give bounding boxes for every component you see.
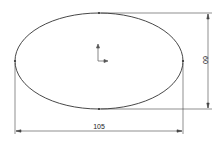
coordinate-axes-icon bbox=[97, 44, 109, 63]
width-dimension-label[interactable]: 105 bbox=[93, 123, 105, 130]
height-dimension[interactable] bbox=[101, 13, 212, 109]
height-dimension-label[interactable]: 60 bbox=[202, 56, 209, 64]
sketch-canvas: 105 60 bbox=[0, 0, 223, 152]
